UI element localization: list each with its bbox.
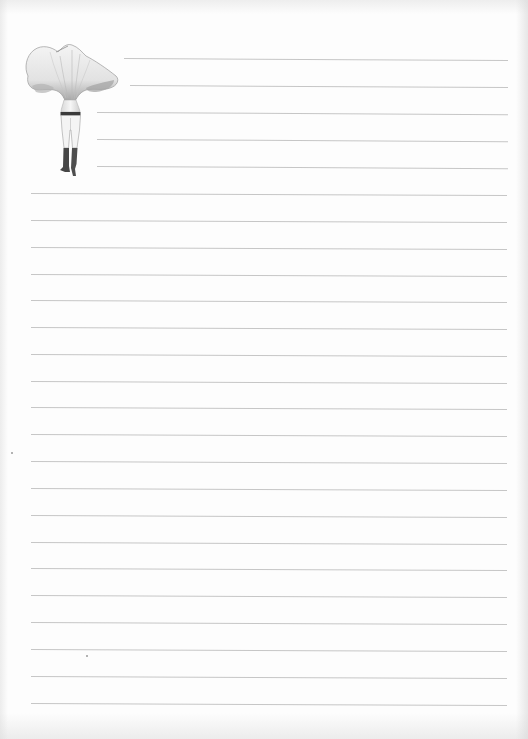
ruled-line-short [97,139,508,142]
ruled-line [31,595,507,598]
paper-edge-right [516,0,528,739]
paper-edge-bottom [0,713,528,739]
ruled-line [31,327,507,330]
waistband [61,112,81,116]
ruled-line [31,354,507,357]
paper-edge-left [0,0,8,739]
ruled-line [31,542,507,545]
ruled-line [31,381,507,384]
right-boot [71,148,78,176]
ruled-line [31,622,507,625]
left-boot [60,148,70,172]
ruled-line-short [97,166,508,169]
mushroom-figure-icon [20,38,125,183]
ruled-line [31,649,507,652]
ruled-line-short [130,85,508,88]
ruled-line [31,461,507,464]
notepaper-sheet [0,0,528,739]
paper-speck [11,452,13,454]
ruled-line [31,515,507,518]
ruled-line [31,220,507,223]
ruled-line [31,703,507,706]
mushroom-cap [26,45,118,104]
ruled-line [31,274,507,277]
ruled-line-short [124,58,508,61]
ruled-line [31,407,507,410]
paper-speck [86,655,88,657]
paper-edge-top [0,0,528,14]
ruled-line [31,676,507,679]
ruled-line [31,434,507,437]
ruled-line [31,488,507,491]
ruled-line [31,300,507,303]
ruled-line [31,193,507,196]
ruled-line-short [97,112,508,115]
ruled-line [31,247,507,250]
mushroom-stem [61,100,80,112]
ruled-line [31,568,507,571]
